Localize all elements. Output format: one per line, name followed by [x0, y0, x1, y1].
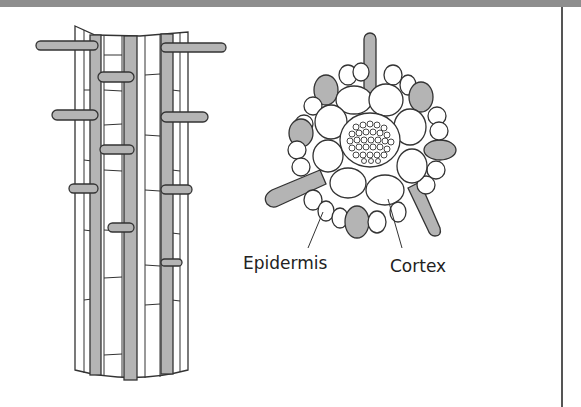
root-diagram: .o{stroke:#333;stroke-width:1.3;fill:#ff…: [0, 0, 581, 407]
root-cross-section: [265, 33, 456, 248]
longitudinal-root: [36, 26, 226, 380]
epidermis-label: Epidermis: [243, 253, 327, 273]
cortex-label: Cortex: [390, 256, 446, 276]
